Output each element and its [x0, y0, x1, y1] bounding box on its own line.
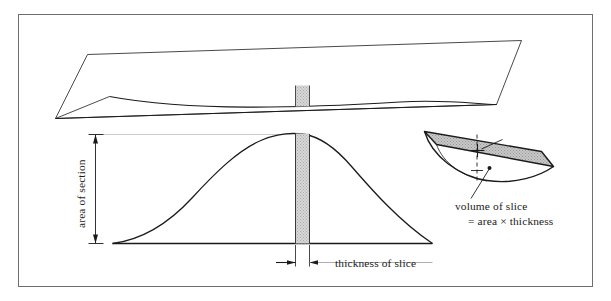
volume-of-slice-figure: area of section thickness of slice volum…	[0, 0, 611, 301]
area-of-section-dimension	[89, 135, 104, 244]
hull-perspective-drawing	[56, 41, 522, 119]
area-slice-bar	[296, 134, 310, 244]
label-volume-of-slice: volume of slice	[455, 200, 527, 212]
three-d-slice-detail	[425, 132, 554, 199]
label-thickness-of-slice: thickness of slice	[335, 257, 416, 269]
label-area-of-section: area of section	[75, 159, 87, 228]
sectional-area-curve-plot	[89, 133, 433, 266]
figure-container: area of section thickness of slice volum…	[0, 0, 611, 301]
hull-slice-band	[296, 86, 310, 107]
label-volume-formula: = area × thickness	[468, 215, 554, 227]
sectional-area-curve	[113, 133, 433, 243]
